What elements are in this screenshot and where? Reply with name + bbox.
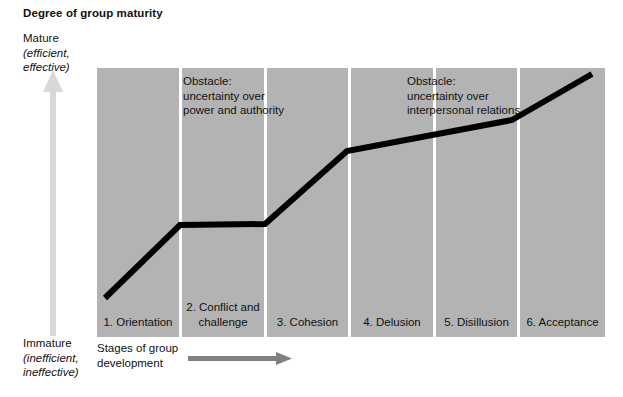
stage-label-3: 3. Cohesion [267, 315, 348, 330]
obstacle-1-line-1: Obstacle: [183, 74, 284, 89]
y-axis-bottom-detail-1: (inefficient, [23, 351, 79, 366]
y-axis-bottom-label: Immature (inefficient, ineffective) [23, 336, 79, 380]
maturity-progression-line [97, 68, 605, 337]
x-axis-label: Stages of group development [97, 341, 178, 370]
y-axis-arrow-icon [36, 70, 70, 336]
stage-5-line-1: 5. Disillusion [436, 315, 517, 330]
x-axis-label-line-1: Stages of group [97, 341, 178, 356]
stage-label-1: 1. Orientation [97, 315, 179, 330]
stage-6-line-1: 6. Acceptance [520, 315, 605, 330]
obstacle-1-line-3: power and authority [183, 103, 284, 118]
y-axis-top-label: Mature (efficient, effective) [23, 31, 70, 75]
stage-4-line-1: 4. Delusion [351, 315, 433, 330]
stage-label-2: 2. Conflict and challenge [182, 300, 264, 329]
x-axis-label-line-2: development [97, 356, 178, 371]
obstacle-2-line-2: uncertainty over [407, 89, 520, 104]
obstacle-annotation-1: Obstacle: uncertainty over power and aut… [183, 74, 284, 118]
page-title: Degree of group maturity [23, 7, 163, 19]
stage-label-4: 4. Delusion [351, 315, 433, 330]
x-axis-arrow-icon [188, 350, 292, 368]
stage-2-line-2: challenge [182, 315, 264, 330]
plot-panel: Obstacle: uncertainty over power and aut… [97, 68, 605, 337]
y-axis-top-detail-1: (efficient, [23, 46, 70, 61]
stage-3-line-1: 3. Cohesion [267, 315, 348, 330]
obstacle-annotation-2: Obstacle: uncertainty over interpersonal… [407, 74, 520, 118]
y-axis-bottom-main: Immature [23, 336, 79, 351]
stage-1-line-1: 1. Orientation [97, 315, 179, 330]
obstacle-2-line-3: interpersonal relations [407, 103, 520, 118]
group-maturity-diagram: Degree of group maturity Mature (efficie… [0, 0, 623, 397]
y-axis-bottom-detail-2: ineffective) [23, 365, 79, 380]
stage-2-line-1: 2. Conflict and [182, 300, 264, 315]
obstacle-2-line-1: Obstacle: [407, 74, 520, 89]
stage-label-5: 5. Disillusion [436, 315, 517, 330]
obstacle-1-line-2: uncertainty over [183, 89, 284, 104]
y-axis-top-main: Mature [23, 31, 70, 46]
stage-label-6: 6. Acceptance [520, 315, 605, 330]
